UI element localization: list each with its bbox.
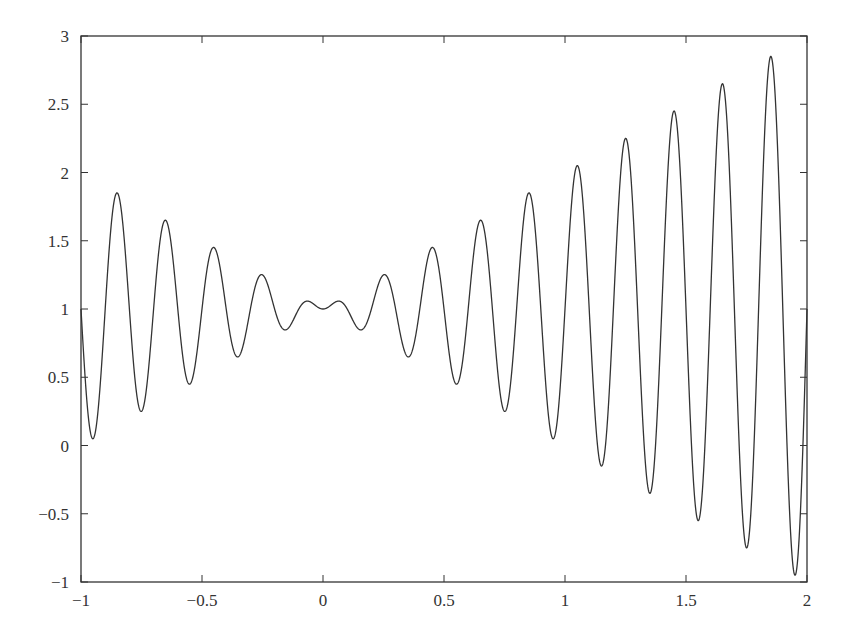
x-tick-label: 2 [803, 591, 812, 610]
y-tick-label: 0 [61, 437, 70, 456]
x-tick-label: 0 [319, 591, 328, 610]
x-tick-label: 1 [561, 591, 570, 610]
y-tick-label: 0.5 [48, 368, 69, 387]
y-tick-label: 2.5 [48, 95, 69, 114]
y-tick-label: −1 [51, 573, 69, 592]
line-chart: −1−0.500.511.52 −1−0.500.511.522.53 [0, 0, 843, 644]
y-tick-label: 3 [61, 27, 70, 46]
function-curve [81, 56, 807, 575]
x-tick-label: −0.5 [187, 591, 218, 610]
x-tick-label: 1.5 [675, 591, 696, 610]
x-tick-label: 0.5 [433, 591, 454, 610]
y-tick-label: 1.5 [48, 232, 69, 251]
x-axis: −1−0.500.511.52 [72, 36, 811, 610]
plot-area [81, 56, 807, 575]
y-tick-label: −0.5 [38, 505, 69, 524]
x-tick-label: −1 [72, 591, 90, 610]
y-tick-label: 2 [61, 164, 70, 183]
y-tick-label: 1 [61, 300, 70, 319]
